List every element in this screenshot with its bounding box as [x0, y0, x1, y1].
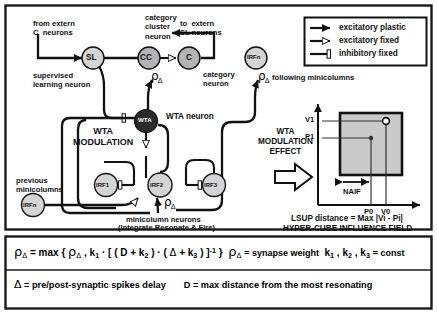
label-category-cluster-neuron: category cluster neuron: [145, 13, 177, 41]
plot-point-v: [383, 118, 390, 125]
plot-point-p: [369, 136, 373, 140]
node-irfn-top-label: IRFn: [247, 54, 260, 60]
label-from-extern-c: from extern C neurons: [33, 19, 75, 38]
figure-root: SL CC C IRFn WTA IRF1 IRF2 IRF3 IRFn fro…: [0, 0, 437, 315]
node-cc-label: CC: [140, 54, 152, 63]
label-integrate-resonate-fire: (Integrate Resonate & Fire): [118, 224, 215, 232]
wire-wta-right-loop: [158, 125, 168, 172]
node-irf2-label: IRF2: [150, 182, 163, 188]
delta-symbol: Δ: [14, 278, 22, 291]
plot-label-naif: NAIF: [343, 188, 361, 196]
legend-label-inhibitory-fixed: inhibitory fixed: [339, 50, 398, 59]
node-wta-label: WTA: [138, 117, 152, 124]
delta-subscript: Δ: [265, 77, 270, 85]
label-category-neuron: category neuron: [203, 70, 235, 89]
label-following-minicolumns: following minicolumns: [272, 74, 354, 82]
node-c-label: C: [186, 54, 192, 63]
caption-lsup-distance: LSUP distance = Max |Vi - Pi|: [291, 215, 403, 224]
diagram-canvas: [0, 0, 437, 315]
plot-tick-v1: V1: [305, 116, 314, 124]
label-supervised-learning-neuron: supervised learning neuron: [33, 71, 90, 90]
node-sl-label: SL: [86, 54, 96, 63]
formula-const-text: = const: [373, 248, 405, 258]
formula-line-1: ρΔ = max { ρΔ , k1 · [ ( D + k2 ) · ( Δ …: [14, 244, 404, 260]
formula-line-2: Δ = pre/post-synaptic spikes delay D = m…: [14, 278, 372, 291]
plot-tick-p1: P1: [305, 133, 314, 141]
node-irfn-left-label: IRFn: [23, 202, 36, 208]
legend-label-excitatory-plastic: excitatory plastic: [339, 24, 406, 33]
label-wta-neuron: WTA neuron: [166, 113, 214, 122]
edge-sl-feedback-down: [99, 66, 112, 118]
label-wta-modulation: WTA MODULATION: [73, 126, 133, 148]
node-irf1-label: IRF1: [96, 182, 109, 188]
label-previous-minicolumns: previous minicolumns: [16, 176, 63, 195]
label-to-extern-sl: to extern SL neurons: [180, 19, 222, 38]
wta-effect-block-arrow: [275, 164, 312, 190]
legend-label-excitatory-fixed: excitatory fixed: [339, 37, 399, 46]
formula-delta-definition: = pre/post-synaptic spikes delay: [24, 280, 166, 290]
edge-rho-to-irf2: [157, 198, 158, 213]
node-irf3-label: IRF3: [204, 182, 217, 188]
formula-synapse-weight-text: = synapse weight: [244, 248, 319, 258]
rho-delta-irf2: ρΔ: [164, 192, 176, 210]
delta-subscript: Δ: [158, 77, 163, 85]
caption-hypercube-influence-field: HYPER-CUBE INFLUENCE FIELD: [283, 225, 412, 234]
edge-extern-c-to-sl: [38, 34, 82, 58]
rho-delta-irfn-top: ρΔ: [258, 66, 270, 84]
edge-prev-minicolumns-to-irf2: [45, 198, 138, 205]
d-symbol: D: [184, 280, 191, 290]
formula-d-definition: = max distance from the most resonating: [193, 280, 372, 290]
rho-delta-cc: ρΔ: [151, 66, 163, 84]
delta-subscript: Δ: [171, 203, 176, 211]
